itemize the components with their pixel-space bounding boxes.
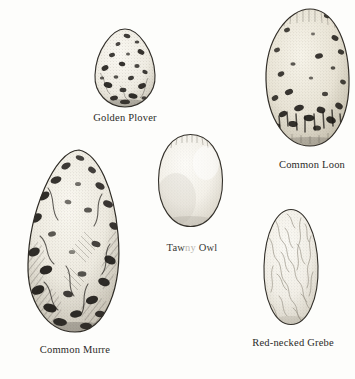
caption-golden-plover: Golden Plover <box>93 113 157 124</box>
caption-tawny-owl: Tawny Owl <box>167 243 218 254</box>
specimen-common-loon <box>263 8 355 148</box>
common-loon-egg-illustration <box>263 8 355 148</box>
caption-tawny-owl-tail: Owl <box>196 242 218 253</box>
specimen-red-necked-grebe <box>261 208 321 326</box>
caption-tawny-owl-head: Taw <box>167 242 186 253</box>
common-murre-egg-illustration <box>22 148 128 334</box>
caption-common-murre: Common Murre <box>40 345 110 356</box>
caption-common-loon: Common Loon <box>279 160 345 171</box>
caption-tawny-owl-faded: ny <box>185 242 196 253</box>
specimen-golden-plover <box>92 28 158 108</box>
tawny-owl-egg-illustration <box>156 133 225 228</box>
caption-red-necked-grebe: Red-necked Grebe <box>252 338 334 349</box>
egg-identification-plate: Golden Plover <box>0 0 355 379</box>
red-necked-grebe-egg-illustration <box>261 208 321 326</box>
specimen-tawny-owl <box>156 133 225 228</box>
golden-plover-egg-illustration <box>92 28 158 108</box>
specimen-common-murre <box>22 148 128 334</box>
